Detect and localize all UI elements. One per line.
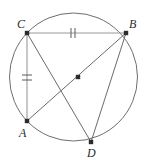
segment-BD — [91, 33, 126, 142]
vertex-label-A: A — [18, 126, 27, 140]
geometry-diagram: C B A D — [0, 0, 149, 160]
vertex-point-D — [89, 140, 93, 144]
diagram-canvas: C B A D — [0, 0, 149, 160]
circle-center-point — [76, 75, 80, 79]
vertex-point-C — [25, 31, 29, 35]
vertex-label-D: D — [86, 146, 96, 160]
vertex-label-C: C — [17, 17, 26, 31]
vertex-point-B — [124, 31, 128, 35]
vertex-point-A — [25, 119, 29, 123]
segment-CD — [27, 33, 91, 142]
vertex-label-B: B — [129, 17, 137, 31]
